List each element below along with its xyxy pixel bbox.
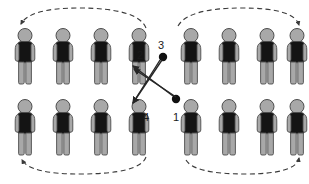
origin-dot-3 bbox=[159, 53, 167, 61]
person-figure bbox=[91, 100, 111, 156]
person-figure bbox=[129, 100, 149, 156]
person-figure bbox=[287, 100, 307, 156]
top-left-arc bbox=[21, 8, 146, 28]
group-bottom-right-row bbox=[181, 100, 307, 156]
person-figure bbox=[15, 29, 35, 85]
person-figure bbox=[257, 29, 277, 85]
bottom-left-arc bbox=[22, 157, 146, 174]
label-1: 1 bbox=[173, 112, 179, 123]
person-figure bbox=[53, 29, 73, 85]
person-figure bbox=[91, 29, 111, 85]
bottom-right-arc bbox=[186, 158, 299, 174]
person-figure bbox=[181, 29, 201, 85]
label-2: 2 bbox=[137, 50, 143, 61]
group-bottom-left-row bbox=[15, 100, 149, 156]
person-figure bbox=[287, 29, 307, 85]
person-figure bbox=[219, 29, 239, 85]
label-3: 3 bbox=[158, 40, 164, 51]
person-figure bbox=[257, 100, 277, 156]
person-figure bbox=[181, 100, 201, 156]
group-top-left-row bbox=[15, 29, 149, 85]
origin-dot-1 bbox=[172, 95, 180, 103]
group-top-right-row bbox=[181, 29, 307, 85]
formation-diagram-svg bbox=[0, 0, 309, 184]
person-figure bbox=[219, 100, 239, 156]
diagram-canvas: 2 3 4 1 bbox=[0, 0, 309, 184]
top-right-arc bbox=[178, 8, 299, 26]
label-4: 4 bbox=[143, 112, 149, 123]
person-figure bbox=[15, 100, 35, 156]
person-figure bbox=[53, 100, 73, 156]
